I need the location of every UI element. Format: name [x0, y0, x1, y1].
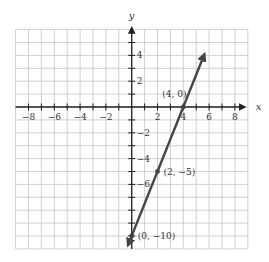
- x-tick-label: −2: [99, 112, 112, 122]
- coordinate-plane: xy −8−6−4−2246842−2−4−6 (4, 0)(2, −5)(0,…: [0, 0, 269, 262]
- x-tick-label: 8: [232, 112, 238, 122]
- y-tick-label: −6: [137, 179, 151, 189]
- y-tick-label: −2: [137, 128, 150, 138]
- x-tick-label: −4: [73, 112, 87, 122]
- y-tick-label: 4: [137, 50, 143, 60]
- x-tick-label: −8: [22, 112, 36, 122]
- x-tick-label: 6: [206, 112, 212, 122]
- x-tick-label: 2: [155, 112, 161, 122]
- point-label: (0, −10): [138, 231, 175, 241]
- point-label: (4, 0): [162, 89, 186, 99]
- y-tick-label: −4: [137, 154, 151, 164]
- y-axis-label: y: [128, 10, 135, 21]
- data-point: [155, 169, 160, 174]
- y-tick-label: 2: [137, 76, 143, 86]
- x-tick-label: −6: [48, 112, 62, 122]
- data-point: [181, 105, 186, 110]
- data-point: [129, 234, 134, 239]
- point-label: (2, −5): [164, 167, 196, 177]
- x-axis-label: x: [256, 101, 262, 112]
